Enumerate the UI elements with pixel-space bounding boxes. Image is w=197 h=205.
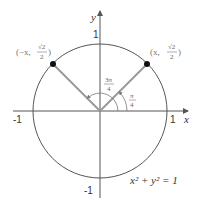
svg-text:2: 2 — [170, 53, 174, 61]
angle-label-pi-over-4: π 4 — [129, 92, 136, 109]
angle-label-3pi-over-4: 3π 4 — [104, 76, 114, 93]
svg-text:3π: 3π — [105, 76, 113, 84]
svg-text:2: 2 — [40, 53, 44, 61]
y-axis-label: y — [90, 11, 96, 23]
svg-text:): ) — [48, 47, 51, 57]
svg-text:π: π — [130, 92, 134, 100]
unit-circle-diagram: y x 1 -1 -1 1 x² + y² = 1 (x, √2 2 ) (−x… — [0, 0, 197, 205]
point-label-q2: (−x, √2 2 ) — [16, 43, 51, 61]
svg-text:√2: √2 — [168, 43, 176, 51]
svg-text:√2: √2 — [38, 43, 46, 51]
radius-line-q2 — [53, 64, 100, 111]
svg-text:4: 4 — [130, 101, 134, 109]
point-q1 — [144, 61, 150, 67]
x-tick-1: 1 — [170, 114, 176, 125]
point-q2 — [50, 61, 56, 67]
angle-arc-pi-over-4 — [119, 92, 127, 111]
svg-text:): ) — [178, 47, 181, 57]
svg-text:(x,: (x, — [150, 47, 160, 57]
svg-text:4: 4 — [107, 85, 111, 93]
y-tick-1: 1 — [93, 29, 99, 40]
circle-equation: x² + y² = 1 — [129, 174, 178, 186]
x-axis-label: x — [183, 113, 189, 125]
x-tick-neg1: -1 — [13, 114, 22, 125]
point-label-q1: (x, √2 2 ) — [150, 43, 181, 61]
y-tick-neg1: -1 — [84, 185, 93, 196]
svg-text:(−x,: (−x, — [16, 47, 31, 57]
